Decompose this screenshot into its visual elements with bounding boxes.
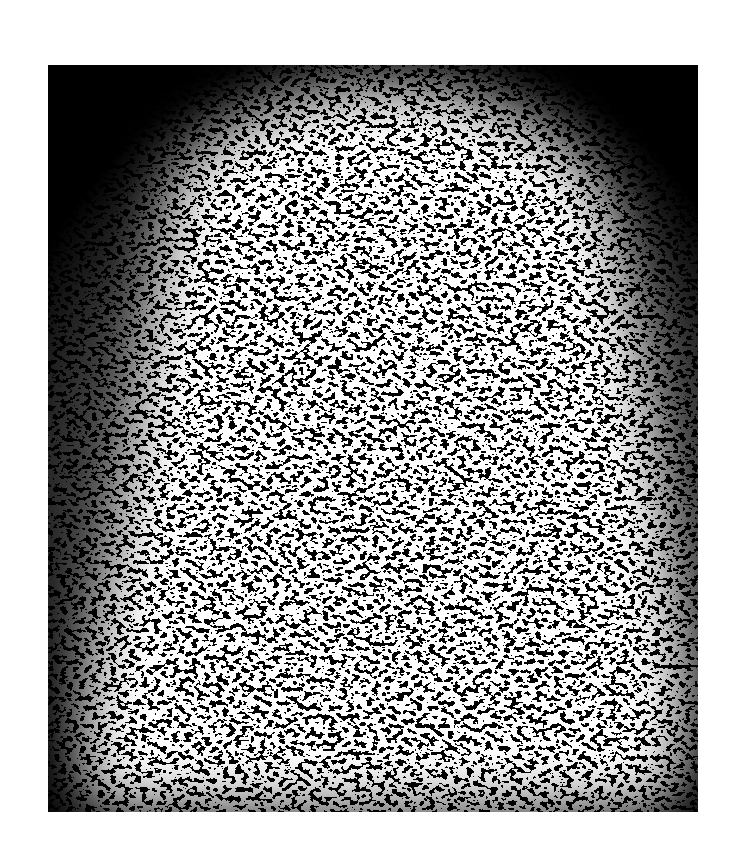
speckle-texture: [48, 65, 698, 812]
page: [0, 0, 747, 866]
speckle-image-frame: [48, 65, 698, 812]
